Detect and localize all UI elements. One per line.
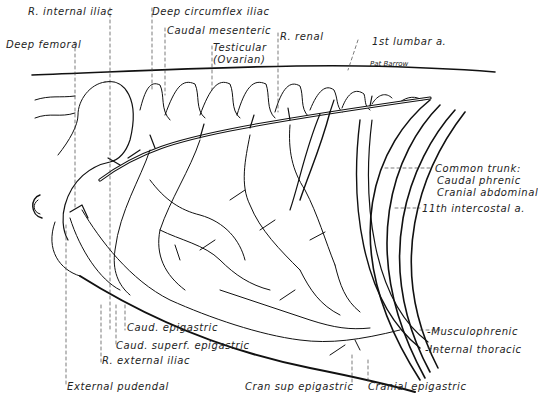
label-caudal-phrenic: Caudal phrenic [437,175,521,186]
label-deep-femoral: Deep femoral [6,39,81,50]
label-testicular: Testicular [213,42,267,53]
label-cranial-abdominal: Cranial abdominal [437,187,538,198]
label-cran-sup-epigastric: Cran sup epigastric [245,381,354,392]
label-external-pudendal: External pudendal [67,381,169,392]
label-r-external-iliac: R. external iliac [102,355,190,366]
label-cranial-epigastric: Cranial epigastric [368,381,467,392]
label-r-renal: R. renal [280,31,324,42]
ventral-outline [80,276,415,392]
label-common-trunk: Common trunk: [435,163,521,174]
label-caud-superf-epigastric: Caud. superf. epigastric [116,340,250,351]
label-musculophrenic: -Musculophrenic [427,326,518,337]
label-caud-epigastric: Caud. epigastric [127,322,218,333]
label-r-internal-iliac: R. internal iliac [28,6,113,17]
label-caudal-mesenteric: Caudal mesenteric [167,25,271,36]
artist-signature: Pat Barrow [370,59,408,70]
label-ovarian: (Ovarian) [213,54,265,65]
label-first-lumbar: 1st lumbar a. [372,36,446,47]
label-11th-intercostal: 11th intercostal a. [422,203,525,214]
label-deep-circumflex-iliac: Deep circumflex iliac [152,6,270,17]
label-internal-thoracic: -Internal thoracic [425,344,522,355]
aorta [100,98,430,180]
dorsal-outline [32,66,495,75]
